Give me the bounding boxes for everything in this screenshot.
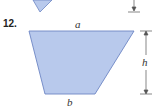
previous-figure-fragment (33, 0, 52, 12)
trapezoid-shape (29, 31, 134, 94)
problem-number: 12. (3, 18, 17, 29)
previous-height-arrow (128, 0, 140, 12)
label-top-base: a (75, 18, 81, 30)
label-bottom-base: b (67, 96, 73, 108)
figure-canvas (0, 0, 154, 110)
label-height: h (142, 56, 148, 68)
